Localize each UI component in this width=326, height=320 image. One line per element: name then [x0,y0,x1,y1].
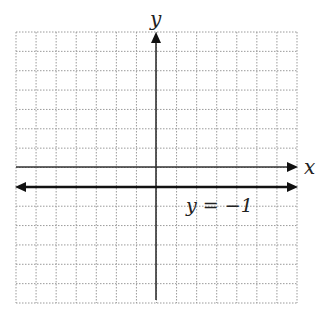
y-axis-arrow-icon [151,32,161,43]
x-axis-label: x [304,155,315,179]
line-right-arrow-icon [287,182,298,192]
y-axis-label: y [150,7,161,31]
line-left-arrow-icon [15,182,26,192]
line-label: y = −1 [186,194,253,216]
coordinate-grid [0,0,326,320]
x-axis-arrow-icon [287,162,298,172]
